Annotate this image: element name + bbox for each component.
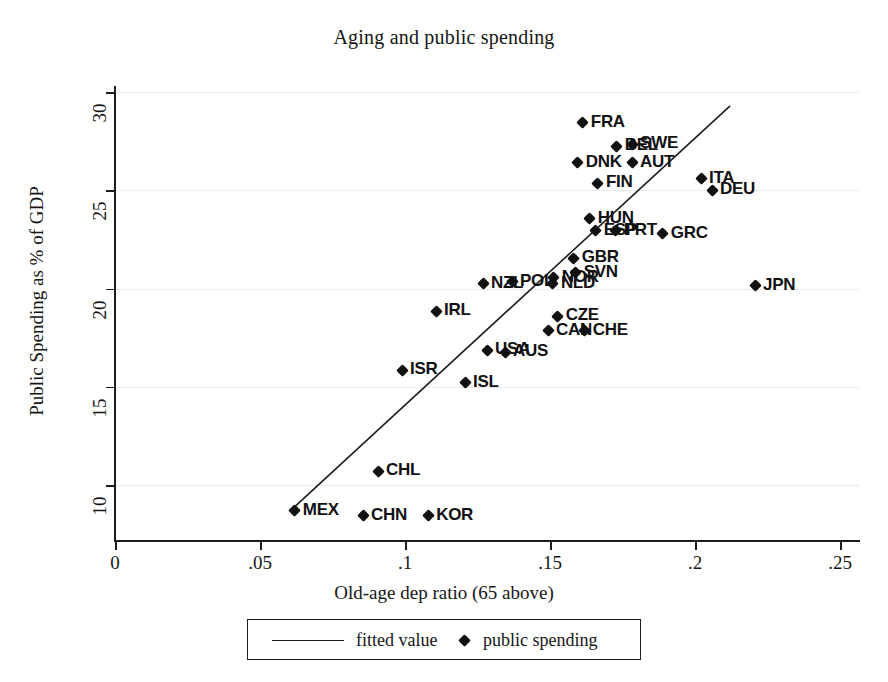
chart-legend: fitted value public spending	[247, 619, 641, 660]
diamond-marker-icon	[583, 212, 596, 225]
point-label: PRT	[624, 220, 657, 240]
chart-figure: Aging and public spending Public Spendin…	[0, 0, 888, 682]
point-label: ISR	[410, 359, 437, 379]
point-label: SWE	[640, 133, 678, 153]
chart-title: Aging and public spending	[0, 26, 888, 49]
diamond-marker-icon	[592, 177, 605, 190]
x-tick-mark	[405, 541, 407, 550]
diamond-marker-icon	[481, 344, 494, 357]
diamond-marker-icon	[567, 252, 580, 265]
point-label: CHN	[371, 505, 407, 525]
legend-entry-fitted-value: fitted value	[272, 620, 437, 661]
point-label: AUT	[640, 152, 674, 172]
legend-label-fitted-value: fitted value	[356, 630, 437, 651]
legend-label-public-spending: public spending	[483, 630, 598, 651]
y-tick-label: 20	[89, 290, 111, 330]
gridline	[116, 289, 860, 290]
point-label: JPN	[763, 275, 795, 295]
diamond-marker-icon	[430, 305, 443, 318]
point-label: MEX	[303, 500, 339, 520]
fitted-line	[0, 0, 888, 682]
legend-line-icon	[272, 640, 344, 642]
x-tick-label: 0	[80, 552, 150, 574]
diamond-marker-icon	[571, 156, 584, 169]
diamond-marker-icon	[656, 227, 669, 240]
diamond-marker-icon	[626, 156, 639, 169]
point-label: CHL	[386, 460, 420, 480]
point-label: CAN	[556, 320, 592, 340]
diamond-marker-icon	[372, 465, 385, 478]
x-tick-label: .2	[660, 552, 730, 574]
diamond-marker-icon	[288, 504, 301, 517]
legend-diamond-icon	[458, 634, 471, 647]
x-tick-mark	[115, 541, 117, 550]
point-label: FRA	[591, 112, 625, 132]
diamond-marker-icon	[422, 509, 435, 522]
x-tick-mark	[695, 541, 697, 550]
diamond-marker-icon	[576, 116, 589, 129]
point-label: AUS	[513, 341, 548, 361]
legend-entry-public-spending: public spending	[458, 620, 598, 661]
point-label: NLD	[561, 273, 595, 293]
point-label: DEU	[720, 179, 755, 199]
diamond-marker-icon	[695, 172, 708, 185]
y-tick-label: 15	[89, 388, 111, 428]
diamond-marker-icon	[396, 364, 409, 377]
diamond-marker-icon	[357, 509, 370, 522]
point-label: ISL	[473, 372, 499, 392]
point-label: CHE	[593, 320, 628, 340]
x-tick-mark	[260, 541, 262, 550]
point-label: POL	[520, 271, 554, 291]
x-tick-label: .25	[805, 552, 875, 574]
point-label: DNK	[586, 152, 622, 172]
gridline	[116, 92, 860, 93]
diamond-marker-icon	[749, 279, 762, 292]
point-label: KOR	[436, 505, 473, 525]
x-tick-label: .1	[370, 552, 440, 574]
diamond-marker-icon	[610, 140, 623, 153]
y-tick-label: 25	[89, 191, 111, 231]
diamond-marker-icon	[542, 324, 555, 337]
y-tick-label: 10	[89, 486, 111, 526]
x-tick-label: .15	[515, 552, 585, 574]
point-label: GRC	[671, 223, 708, 243]
point-label: FIN	[606, 172, 632, 192]
point-label: IRL	[444, 300, 470, 320]
x-axis-line	[114, 540, 860, 542]
x-tick-mark	[840, 541, 842, 550]
x-axis-title: Old-age dep ratio (65 above)	[0, 582, 888, 604]
x-tick-label: .05	[225, 552, 295, 574]
y-axis-title: Public Spending as % of GDP	[26, 101, 48, 501]
y-tick-label: 30	[89, 93, 111, 133]
x-tick-mark	[550, 541, 552, 550]
y-axis-line	[114, 86, 116, 542]
gridline	[116, 485, 860, 486]
